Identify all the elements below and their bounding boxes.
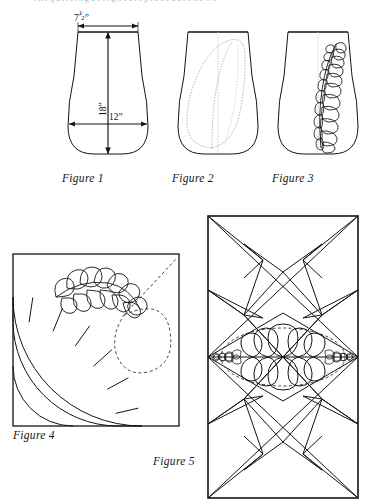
dimension-arrow-height: [105, 32, 111, 154]
figure-3: [266, 18, 370, 170]
figure-page: t h e q u i l t i n g d e s i g n s a r …: [0, 0, 371, 504]
cut-off-header-text: t h e q u i l t i n g d e s i g n s a r …: [0, 0, 371, 6]
figure-4-drawing: [12, 253, 182, 433]
figure-2: [166, 18, 270, 170]
figure-5: [206, 214, 362, 500]
figure-4-caption: Figure 4: [13, 429, 55, 441]
top-width-denominator: 2: [81, 14, 84, 21]
figure-1-caption: Figure 1: [62, 172, 104, 184]
dimension-label-height: 18”: [98, 102, 108, 116]
dimension-arrow-top-width: [78, 22, 138, 32]
corner-feather-inner-bank: [61, 290, 141, 318]
top-width-fraction: 1⁄2: [79, 12, 85, 21]
figure-1-drawing: [56, 18, 160, 170]
figure-3-drawing: [266, 18, 370, 170]
figure-5-drawing: [206, 214, 362, 500]
block-frame: [13, 254, 179, 426]
feather-guide-spine: [212, 42, 232, 148]
feather-placement-guides: [115, 259, 176, 373]
figure-2-caption: Figure 2: [172, 172, 214, 184]
figure-2-drawing: [166, 18, 270, 170]
feather-guide-inner-curve: [224, 44, 238, 146]
figure-1: 71⁄2” 18” 12”: [56, 18, 160, 170]
feather-wreath: [241, 324, 325, 390]
figure-5-caption: Figure 5: [153, 455, 195, 467]
top-width-unit: ”: [85, 13, 89, 23]
figure-3-caption: Figure 3: [272, 172, 314, 184]
dimension-label-top-width: 71⁄2”: [74, 12, 89, 23]
figure-4: [12, 253, 182, 433]
cut-off-header-line: t h e q u i l t i n g d e s i g n s a r …: [34, 0, 217, 3]
dimension-label-bottom-width: 12”: [109, 112, 123, 122]
